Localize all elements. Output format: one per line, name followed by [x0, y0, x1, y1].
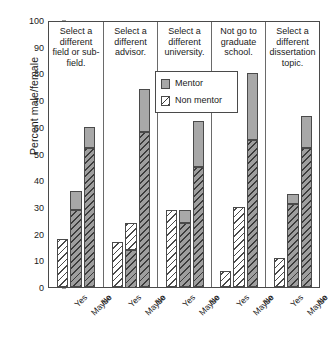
chart-bar — [233, 207, 245, 287]
chart-bar — [57, 239, 69, 287]
chart-bar — [301, 116, 313, 287]
bar-segment-mentor — [193, 121, 205, 166]
chart-panel: Not go to graduate school. — [211, 22, 265, 287]
y-axis-tick-labels: 1009080706050403020100 — [18, 21, 44, 288]
x-tick-label: Yes — [127, 293, 143, 309]
y-tick-label: 80 — [18, 70, 44, 79]
bar-segment-non-mentor — [233, 207, 245, 287]
chart-bar — [287, 194, 299, 287]
y-tick-label: 0 — [18, 284, 44, 293]
legend-label-non-mentor: Non mentor — [175, 96, 222, 105]
bar-segment-non-mentor — [193, 167, 205, 287]
bar-segment-non-mentor — [125, 223, 137, 250]
chart-bar — [166, 210, 178, 287]
panel-bars — [212, 20, 265, 287]
bar-segment-mentor — [247, 73, 259, 140]
legend-label-mentor: Mentor — [175, 79, 203, 88]
bar-segment-non-mentor — [84, 148, 96, 287]
bar-segment-non-mentor — [220, 271, 232, 287]
bar-segment-non-mentor — [70, 210, 82, 287]
chart-panel: Select a different university. — [157, 22, 211, 287]
y-tick-label: 60 — [18, 123, 44, 132]
chart-bar — [193, 121, 205, 287]
bar-segment-non-mentor — [125, 250, 137, 287]
chart-panel: Select a different dissertation topic. — [265, 22, 319, 287]
bar-segment-non-mentor — [247, 140, 259, 287]
bar-segment-non-mentor — [57, 239, 69, 287]
y-tick-label: 30 — [18, 203, 44, 212]
bar-segment-mentor — [139, 89, 151, 132]
chart-bar — [274, 258, 286, 287]
bar-segment-non-mentor — [301, 148, 313, 287]
chart-bar — [179, 210, 191, 287]
bar-segment-mentor — [179, 210, 191, 223]
chart-bar — [84, 127, 96, 287]
chart-bar — [139, 89, 151, 287]
chart-bar — [70, 191, 82, 287]
x-tick-label: Yes — [235, 293, 251, 309]
bar-segment-non-mentor — [139, 132, 151, 287]
bar-segment-non-mentor — [166, 210, 178, 287]
panel-bars — [104, 20, 157, 287]
x-tick-label: Yes — [73, 293, 89, 309]
bar-segment-non-mentor — [112, 242, 124, 287]
chart-panel: Select a different field or sub-field. — [49, 22, 103, 287]
panel-bars — [266, 20, 319, 287]
y-tick-label: 40 — [18, 177, 44, 186]
bar-segment-non-mentor — [179, 223, 191, 287]
y-tick-label: 50 — [18, 150, 44, 159]
bar-segment-mentor — [84, 127, 96, 148]
panel-bars — [158, 20, 211, 287]
y-tick-label: 100 — [18, 17, 44, 26]
y-tick-label: 10 — [18, 257, 44, 266]
legend-item-mentor: Mentor — [161, 77, 232, 90]
plot-area: Select a different field or sub-field.Se… — [48, 21, 320, 288]
chart-bar — [247, 73, 259, 287]
panel-bars — [49, 20, 103, 287]
non-mentor-swatch-icon — [161, 96, 170, 106]
bar-segment-mentor — [70, 191, 82, 210]
bar-segment-mentor — [301, 116, 313, 148]
mentor-swatch-icon — [161, 79, 170, 89]
y-tick-label: 90 — [18, 43, 44, 52]
x-tick-label: Yes — [289, 293, 305, 309]
chart-bar — [125, 223, 137, 287]
y-tick-label: 20 — [18, 230, 44, 239]
chart-legend: Mentor Non mentor — [155, 71, 238, 113]
bar-segment-non-mentor — [274, 258, 286, 287]
chart-bar — [220, 271, 232, 287]
x-tick-label: Yes — [181, 293, 197, 309]
chart-bar — [112, 242, 124, 287]
chart-figure: Percent male/female 10090807060504030201… — [0, 0, 332, 342]
bar-segment-non-mentor — [287, 204, 299, 287]
bar-segment-mentor — [287, 194, 299, 205]
legend-item-non-mentor: Non mentor — [161, 94, 232, 107]
chart-panel: Select a different advisor. — [103, 22, 157, 287]
y-tick-label: 70 — [18, 97, 44, 106]
